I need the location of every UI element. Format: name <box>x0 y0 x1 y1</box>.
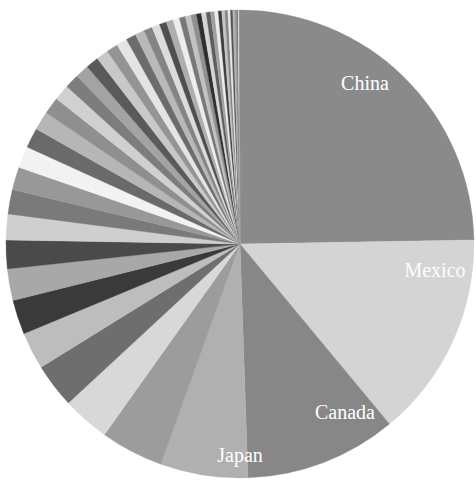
slice-label-mexico: Mexico <box>404 259 465 281</box>
pie-slices-group <box>6 10 474 478</box>
pie-chart-svg: ChinaMexicoCanadaJapan <box>0 0 476 493</box>
slice-label-china: China <box>341 72 389 94</box>
slice-label-japan: Japan <box>217 444 263 467</box>
slice-label-canada: Canada <box>315 401 375 423</box>
pie-chart-figure: ChinaMexicoCanadaJapan <box>0 0 476 493</box>
